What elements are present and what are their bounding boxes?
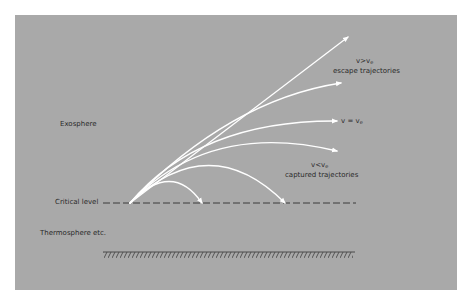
captured-condition: v<ve — [311, 162, 328, 169]
exosphere-label: Exosphere — [60, 121, 97, 128]
escape-caption: escape trajectories — [333, 68, 400, 75]
ground-surface — [103, 252, 355, 258]
captured-trajectory-mid — [130, 166, 285, 204]
threshold-trajectory — [130, 121, 337, 203]
captured-caption: captured trajectories — [285, 172, 358, 179]
escape-condition: v>ve — [356, 58, 373, 65]
trajectory-diagram — [0, 0, 471, 307]
critical-level-label: Critical level — [55, 199, 98, 206]
escape-trajectory-curved — [130, 83, 341, 203]
thermosphere-label: Thermosphere etc. — [40, 230, 106, 237]
threshold-condition: v = ve — [341, 118, 363, 125]
